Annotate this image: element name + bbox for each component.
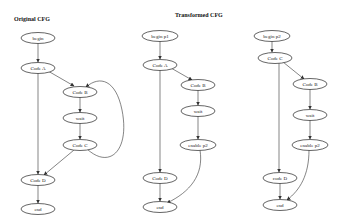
svg-text:enable p2: enable p2 <box>300 143 320 148</box>
node-begin-p2: begin p2 <box>254 31 290 42</box>
svg-text:Code A: Code A <box>30 66 46 71</box>
svg-text:end: end <box>276 203 284 208</box>
svg-text:Code B: Code B <box>72 90 88 95</box>
svg-text:enable p2: enable p2 <box>188 143 208 148</box>
node-code-b: Code B <box>63 87 97 98</box>
svg-text:begin p1: begin p1 <box>151 34 169 39</box>
node-p1-code-d: Code D <box>143 173 177 184</box>
node-p2-code-c: Code C <box>258 53 292 64</box>
svg-text:Code C: Code C <box>267 56 283 61</box>
node-p1-code-b: Code B <box>181 80 215 91</box>
svg-text:Code D: Code D <box>152 176 168 181</box>
cfg-diagram: Original CFG Transformed CFG begin Code … <box>0 0 339 222</box>
node-p2-code-b: Code B <box>293 79 327 90</box>
node-p1-enable-p2: enable p2 <box>180 140 216 151</box>
node-p2-wait: wait <box>293 110 327 121</box>
svg-text:Code D: Code D <box>30 178 46 183</box>
svg-text:Code C: Code C <box>72 143 88 148</box>
node-p2-end: end <box>263 200 297 211</box>
node-code-d: Code D <box>21 175 55 186</box>
svg-text:wait: wait <box>306 113 315 118</box>
node-p2-enable-p2: enable p2 <box>292 140 328 151</box>
node-begin: begin <box>21 33 55 44</box>
node-p2-code-d: code D <box>263 173 297 184</box>
svg-text:code D: code D <box>273 176 288 181</box>
svg-text:begin p2: begin p2 <box>263 34 281 39</box>
node-code-c: Code C <box>63 140 97 151</box>
title-original-cfg: Original CFG <box>14 16 50 22</box>
node-p1-code-a: Code A <box>143 60 177 71</box>
node-p1-wait: wait <box>181 106 215 117</box>
svg-text:Code B: Code B <box>190 83 206 88</box>
svg-text:end: end <box>34 207 42 212</box>
svg-text:begin: begin <box>32 36 44 41</box>
node-p1-end: end <box>143 202 177 213</box>
svg-text:wait: wait <box>76 116 85 121</box>
node-code-a: Code A <box>21 63 55 74</box>
node-end: end <box>21 204 55 215</box>
title-transformed-cfg: Transformed CFG <box>175 12 223 18</box>
node-wait: wait <box>63 113 97 124</box>
svg-text:Code B: Code B <box>302 82 318 87</box>
svg-text:Code A: Code A <box>152 63 168 68</box>
svg-text:end: end <box>156 205 164 210</box>
node-begin-p1: begin p1 <box>142 31 178 42</box>
svg-text:wait: wait <box>194 109 203 114</box>
